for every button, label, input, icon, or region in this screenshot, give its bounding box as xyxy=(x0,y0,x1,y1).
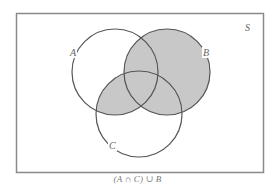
label-set-c: C xyxy=(109,140,116,151)
diagram-caption: (A ∩ C) ∪ B xyxy=(0,174,275,184)
label-universe-s: S xyxy=(245,22,250,33)
venn-diagram: A B C S xyxy=(0,0,275,189)
label-set-b: B xyxy=(203,47,209,58)
label-set-a: A xyxy=(69,47,77,58)
